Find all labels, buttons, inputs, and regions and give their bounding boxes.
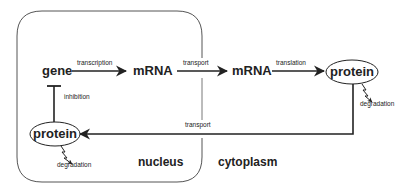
node-protein-cytoplasmic: protein <box>330 64 374 79</box>
label-transcription: transcription <box>77 59 113 67</box>
node-mrna-cytoplasmic: mRNA <box>232 63 272 78</box>
arrow-transport-protein <box>80 84 353 134</box>
label-translation: translation <box>276 59 306 66</box>
node-gene: gene <box>42 63 72 78</box>
label-transport-mrna: transport <box>183 59 209 67</box>
node-protein-nuclear: protein <box>33 126 77 141</box>
region-label-nucleus: nucleus <box>138 155 184 169</box>
label-inhibition: inhibition <box>64 93 90 100</box>
label-degradation-cytoplasmic: degradation <box>360 100 395 108</box>
label-degradation-nuclear: degradation <box>57 161 92 169</box>
label-transport-protein: transport <box>185 121 211 129</box>
node-mrna-nuclear: mRNA <box>133 63 173 78</box>
region-label-cytoplasm: cytoplasm <box>218 155 277 169</box>
gene-regulation-diagram: gene transcription mRNA transport mRNA t… <box>0 0 416 194</box>
